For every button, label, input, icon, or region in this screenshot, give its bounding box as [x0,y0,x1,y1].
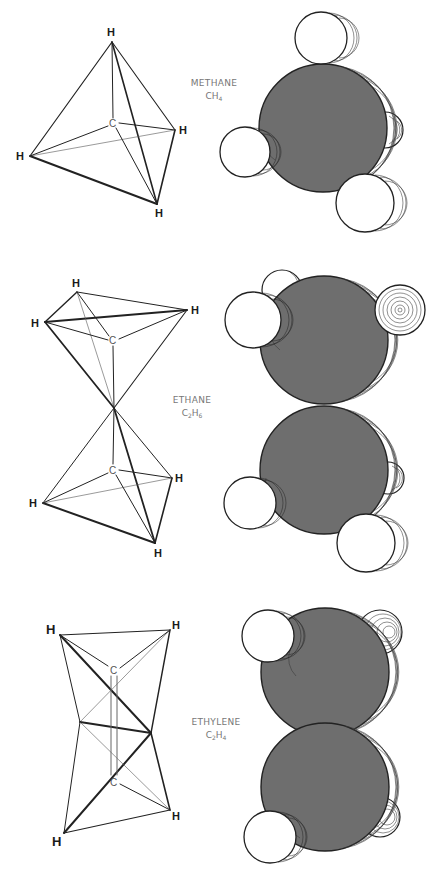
hydrogen-label: H [154,547,162,559]
carbon-sphere [259,64,397,192]
carbon-label: C [109,465,116,476]
carbon-label: C [109,118,116,129]
hydrogen-label: H [172,619,180,631]
methane-caption: METHANE CH4 [191,78,237,102]
hydrogen-sphere-end-on [375,285,425,335]
ethylene-atom-labels: H H C C H H [46,619,180,849]
molecule-name-ethylene: ETHYLENE [192,717,241,727]
molecule-formula-ethane: C2H6 [182,408,203,419]
molecule-name-ethane: ETHANE [173,395,211,405]
hydrogen-label: H [191,304,199,316]
hydrogen-label: H [179,124,187,136]
hydrogen-label: H [46,622,55,637]
ethylene-caption: ETHYLENE C2H4 [192,717,241,741]
ethane-tetrahedral-model [43,292,187,543]
hydrogen-label: H [155,207,163,219]
hydrogen-label: H [52,834,61,849]
carbon-sphere [260,276,398,404]
ethane-caption: ETHANE C2H6 [173,395,211,419]
hydrogen-label: H [29,497,37,509]
hydrogen-label: H [175,472,183,484]
methane-atom-labels: H H H H C [16,26,187,219]
hydrogen-sphere [336,174,407,232]
molecule-formula-methane: CH4 [206,91,223,102]
methane-tetrahedral-model [30,42,175,204]
ethylene-tetrahedral-model [60,630,170,833]
hydrogen-sphere [337,514,408,572]
molecular-structures-figure: H H H H C METHANE CH4 [0,0,448,875]
carbon-label: C [110,777,117,788]
methane-space-filling-model [220,12,407,232]
hydrogen-label: H [16,150,24,162]
molecule-name-methane: METHANE [191,78,237,88]
carbon-label: C [110,665,117,676]
hydrogen-sphere [295,12,359,64]
hydrogen-label: H [172,810,180,822]
hydrogen-label: H [72,277,80,289]
hydrogen-label: H [31,317,39,329]
ethylene-space-filling-model [242,608,402,863]
ethane-space-filling-model [224,270,425,572]
carbon-label: C [109,335,116,346]
hydrogen-label: H [107,26,115,38]
molecule-formula-ethylene: C2H4 [206,730,227,741]
